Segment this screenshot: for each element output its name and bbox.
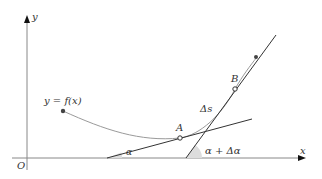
curve-f <box>63 57 257 139</box>
alpha-plus-label: α + Δα <box>205 145 241 156</box>
point-b-label: B <box>230 73 238 84</box>
origin-label: O <box>17 160 25 171</box>
y-axis-label: y <box>31 11 38 22</box>
arc-length-label: Δs <box>199 103 212 114</box>
tangent-angle-diagram: y x O y = f(x) A B Δs α α + Δα <box>0 0 322 179</box>
tangent-line-b <box>186 35 276 158</box>
x-axis-label: x <box>300 145 306 156</box>
curve-label: y = f(x) <box>43 95 82 106</box>
y-axis-arrow-icon <box>24 15 30 23</box>
curve-start-point <box>61 109 65 113</box>
point-a-label: A <box>175 122 183 133</box>
curve-end-point <box>254 55 258 59</box>
point-a <box>178 136 182 140</box>
alpha-label: α <box>126 147 132 157</box>
diagram-canvas: y x O y = f(x) A B Δs α α + Δα <box>0 0 322 179</box>
point-b <box>233 87 237 91</box>
